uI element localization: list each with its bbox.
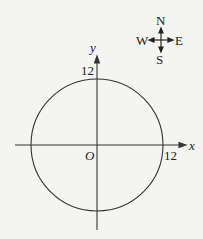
x-tick-label: 12 xyxy=(164,148,177,163)
x-axis-arrow-icon xyxy=(179,143,186,148)
y-tick-label: 12 xyxy=(81,63,94,78)
y-axis-arrow-icon xyxy=(95,56,100,63)
compass-icon xyxy=(149,28,173,52)
y-axis-label: y xyxy=(88,40,96,55)
east-label: E xyxy=(175,33,183,48)
x-axis-label: x xyxy=(188,138,195,153)
south-label: S xyxy=(156,52,163,67)
north-label: N xyxy=(156,13,166,28)
coordinate-diagram: N S E W x y O 12 12 xyxy=(0,0,203,239)
west-label: W xyxy=(136,33,149,48)
origin-label: O xyxy=(85,148,95,163)
